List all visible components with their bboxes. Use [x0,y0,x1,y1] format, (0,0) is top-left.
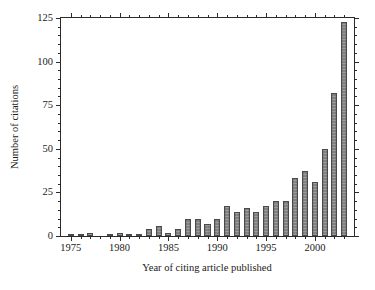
y-tick-minor-right [354,44,357,45]
x-tick-label: 1985 [158,243,179,254]
x-tick-minor-top [81,15,82,18]
bar [195,219,201,236]
bar [312,182,318,236]
bar [292,178,298,236]
x-tick-minor [149,236,150,239]
y-tick-minor-right [354,114,357,115]
x-tick-label: 1995 [256,243,277,254]
citation-bar-chart-figure: 0255075100125197519801985199019952000 Nu… [0,0,375,290]
y-tick-minor-right [354,27,357,28]
y-tick-minor-right [354,175,357,176]
x-tick-major [217,236,218,241]
y-tick-major-right [354,236,359,237]
y-tick-minor [58,227,61,228]
x-tick-minor [110,236,111,239]
x-tick-major [266,236,267,241]
bar [175,229,181,236]
y-tick-major [56,149,61,150]
y-tick-minor-right [354,158,357,159]
y-tick-minor [58,219,61,220]
y-tick-minor [58,201,61,202]
bar [283,201,289,236]
y-tick-minor [58,166,61,167]
x-tick-minor-top [256,15,257,18]
bar [253,212,259,236]
y-tick-minor-right [354,219,357,220]
y-tick-label: 75 [43,100,54,111]
y-tick-label: 100 [37,56,53,67]
x-tick-major-top [71,13,72,18]
y-tick-major [56,192,61,193]
y-tick-minor-right [354,88,357,89]
y-tick-label: 50 [43,144,54,155]
y-tick-minor-right [354,201,357,202]
bar [244,208,250,236]
x-axis-title: Year of citing article published [142,262,272,273]
y-tick-major-right [354,192,359,193]
y-tick-major [56,18,61,19]
bar [214,219,220,236]
x-tick-major [71,236,72,241]
x-tick-minor-top [198,15,199,18]
x-tick-minor [198,236,199,239]
bar [204,224,210,236]
x-tick-minor-top [178,15,179,18]
y-axis-title: Number of citations [9,85,20,169]
x-tick-minor [295,236,296,239]
x-tick-minor-top [286,15,287,18]
bar [146,229,152,236]
x-tick-minor-top [100,15,101,18]
y-tick-major-right [354,149,359,150]
x-tick-minor-top [227,15,228,18]
x-tick-major-top [120,13,121,18]
y-tick-minor [58,131,61,132]
bar [322,149,328,236]
y-tick-major-right [354,62,359,63]
bar-series [61,18,354,236]
x-tick-minor-top [237,15,238,18]
y-tick-minor [58,79,61,80]
x-tick-minor-top [159,15,160,18]
x-tick-minor [208,236,209,239]
x-tick-minor-top [139,15,140,18]
x-tick-minor-top [90,15,91,18]
x-tick-minor [227,236,228,239]
x-tick-minor-top [276,15,277,18]
x-tick-major-top [217,13,218,18]
bar [234,212,240,236]
x-tick-minor [334,236,335,239]
x-tick-major-top [315,13,316,18]
bar [341,22,347,237]
bar [263,206,269,236]
x-tick-minor [178,236,179,239]
x-tick-label: 1975 [60,243,81,254]
y-tick-major-right [354,18,359,19]
x-tick-minor [129,236,130,239]
x-tick-label: 1990 [207,243,228,254]
x-tick-minor [139,236,140,239]
y-tick-minor [58,35,61,36]
x-tick-minor [237,236,238,239]
bar [224,206,230,236]
x-tick-minor-top [208,15,209,18]
y-tick-minor [58,27,61,28]
y-tick-minor-right [354,184,357,185]
x-tick-minor [286,236,287,239]
y-tick-minor-right [354,210,357,211]
y-tick-major [56,105,61,106]
y-tick-minor-right [354,131,357,132]
y-tick-minor [58,88,61,89]
x-tick-minor-top [334,15,335,18]
x-tick-minor [276,236,277,239]
y-tick-minor-right [354,123,357,124]
y-tick-minor [58,140,61,141]
x-tick-minor [247,236,248,239]
bar [302,171,308,236]
y-tick-label: 25 [43,187,54,198]
y-tick-minor [58,114,61,115]
y-tick-minor [58,123,61,124]
y-tick-minor [58,210,61,211]
bar [156,226,162,236]
x-tick-major-top [266,13,267,18]
x-tick-minor [256,236,257,239]
